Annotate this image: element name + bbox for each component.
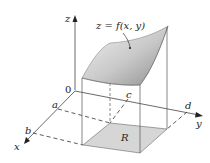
tick-c-label: c [126,89,132,100]
tick-b-label: b [25,125,31,136]
y-axis [75,91,199,115]
surface-label: z = f(x, y) [95,20,145,31]
z-arrow-icon [73,15,78,22]
surface-top [82,26,168,85]
y-axis-label: y [195,118,202,129]
x-axis-label: x [14,141,20,152]
z-axis-label: z [64,13,71,24]
y-arrow-icon [195,112,203,118]
origin-label: 0 [65,84,71,95]
surface-label-dot [129,47,131,49]
surface-over-rectangle-diagram: z = f(x, y) z x y 0 a b c d R [0,0,210,163]
tick-a-label: a [52,99,58,110]
tick-d-label: d [185,100,191,111]
x-axis [26,91,75,141]
region-r-label: R [120,132,129,143]
